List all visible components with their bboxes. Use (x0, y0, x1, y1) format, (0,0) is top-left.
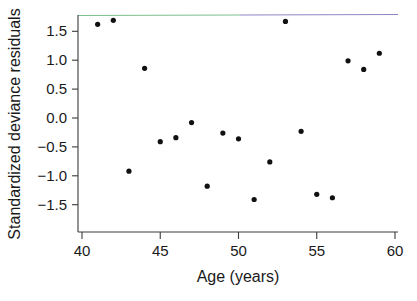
data-point (299, 129, 304, 134)
data-point (361, 67, 366, 72)
x-tick-label: 45 (152, 242, 169, 259)
data-point (220, 130, 225, 135)
plot-canvas: 1.51.00.50.0−0.5−1.0−1.5 4045505560 Age … (0, 0, 417, 301)
data-point (252, 197, 257, 202)
data-point (345, 58, 350, 63)
data-point (189, 120, 194, 125)
data-point (95, 22, 100, 27)
top-edge-left (78, 15, 240, 16)
scatter-plot-figure: 1.51.00.50.0−0.5−1.0−1.5 4045505560 Age … (0, 0, 417, 301)
data-point (126, 169, 131, 174)
y-tick-label: 1.5 (46, 22, 67, 39)
y-axis: 1.51.00.50.0−0.5−1.0−1.5 (37, 15, 78, 232)
data-point (111, 18, 116, 23)
data-point (377, 51, 382, 56)
data-point (173, 135, 178, 140)
x-tick-label: 50 (230, 242, 247, 259)
data-point (267, 159, 272, 164)
y-tick-label: 0.0 (46, 109, 67, 126)
y-tick-label: 0.5 (46, 80, 67, 97)
data-point (158, 139, 163, 144)
y-axis-title: Standardized deviance residuals (6, 8, 23, 239)
data-point (314, 192, 319, 197)
data-point-group (95, 18, 382, 202)
x-tick-label: 40 (74, 242, 91, 259)
y-axis-ticks: 1.51.00.50.0−0.5−1.0−1.5 (37, 22, 78, 212)
y-tick-label: −1.5 (37, 196, 67, 213)
top-edge-right (240, 15, 398, 16)
x-axis: 4045505560 (74, 232, 404, 259)
x-axis-title: Age (years) (197, 268, 280, 285)
x-axis-ticks: 4045505560 (74, 232, 404, 259)
data-point (330, 195, 335, 200)
data-point (283, 19, 288, 24)
y-tick-label: −0.5 (37, 138, 67, 155)
x-tick-label: 55 (308, 242, 325, 259)
x-tick-label: 60 (387, 242, 404, 259)
y-tick-label: −1.0 (37, 167, 67, 184)
data-point (205, 184, 210, 189)
y-tick-label: 1.0 (46, 51, 67, 68)
data-point (142, 66, 147, 71)
data-point (236, 136, 241, 141)
